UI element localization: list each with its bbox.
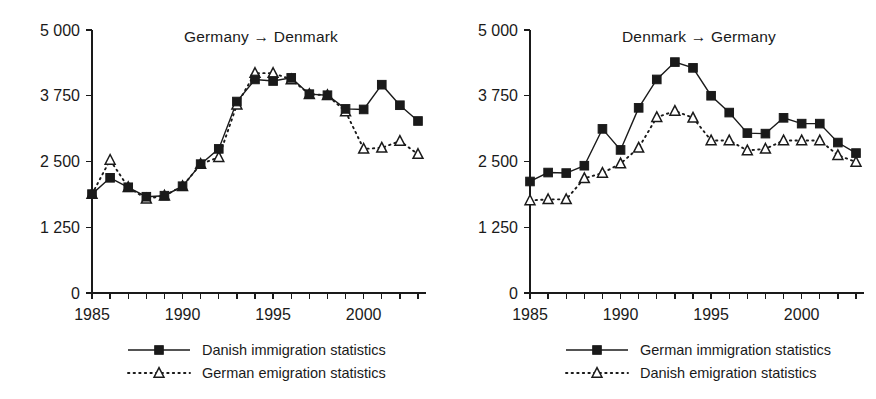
marker-square-left-0-1998 xyxy=(323,91,332,100)
y-tick-label-left-3750: 3 750 xyxy=(40,87,80,104)
marker-square-left-0-2002 xyxy=(396,101,405,110)
marker-triangle-left-1-1986 xyxy=(105,155,115,165)
chart-panel-germany-to-denmark: Germany → Denmark01 2502 5003 7505 00019… xyxy=(0,0,438,399)
marker-square-right-0-1993 xyxy=(671,58,680,67)
marker-square-left-0-1996 xyxy=(287,74,296,83)
marker-square-left-0-1991 xyxy=(196,160,205,169)
marker-square-right-0-1994 xyxy=(689,64,698,73)
y-tick-label-left-1250: 1 250 xyxy=(40,219,80,236)
marker-triangle-right-1-2002 xyxy=(833,150,843,160)
marker-square-left-0-1990 xyxy=(178,182,187,191)
chart-svg-left: Germany → Denmark01 2502 5003 7505 00019… xyxy=(0,0,438,399)
marker-square-left-0-1995 xyxy=(269,77,278,86)
marker-square-right-0-1996 xyxy=(725,108,734,117)
marker-triangle-right-1-1997 xyxy=(742,145,752,155)
marker-square-right-0-1995 xyxy=(707,91,716,100)
marker-square-right-0-1992 xyxy=(652,75,661,84)
series-line-left-1 xyxy=(92,73,418,199)
marker-square-left-0-2001 xyxy=(377,80,386,89)
marker-square-left-0-1994 xyxy=(251,75,260,84)
x-tick-label-left-1990: 1990 xyxy=(165,306,201,323)
marker-square-right-0-1987 xyxy=(562,169,571,178)
y-tick-label-left-5000: 5 000 xyxy=(40,22,80,39)
marker-square-right-0-1997 xyxy=(743,129,752,138)
marker-square-right-0-1998 xyxy=(761,129,770,138)
marker-square-right-0-1991 xyxy=(634,104,643,113)
marker-square-left-0-1988 xyxy=(142,192,151,201)
x-tick-label-right-1990: 1990 xyxy=(603,306,639,323)
marker-triangle-right-1-1986 xyxy=(543,194,553,204)
legend-label-left-1: German emigration statistics xyxy=(202,365,386,381)
marker-triangle-right-1-1999 xyxy=(779,135,789,145)
marker-triangle-left-1-2003 xyxy=(413,149,423,159)
marker-triangle-right-1-1996 xyxy=(724,135,734,145)
marker-square-left-0-2003 xyxy=(414,117,423,126)
marker-triangle-right-1-1989 xyxy=(597,168,607,178)
marker-square-right-0-1999 xyxy=(779,114,788,123)
marker-square-right-0-1988 xyxy=(580,161,589,170)
y-tick-label-right-1250: 1 250 xyxy=(478,219,518,236)
x-tick-label-left-2000: 2000 xyxy=(346,306,382,323)
x-tick-label-right-1995: 1995 xyxy=(693,306,729,323)
y-tick-label-right-3750: 3 750 xyxy=(478,87,518,104)
legend-entry-right-1: Danish emigration statistics xyxy=(566,365,817,381)
marker-square-left-0-1999 xyxy=(341,105,350,114)
x-tick-label-right-2000: 2000 xyxy=(784,306,820,323)
marker-triangle-right-1-1985 xyxy=(525,195,535,205)
legend-marker-square-left xyxy=(155,346,164,355)
marker-square-left-0-1987 xyxy=(124,183,133,192)
marker-square-right-0-2000 xyxy=(797,119,806,128)
marker-square-left-0-1992 xyxy=(214,145,223,154)
marker-square-left-0-1997 xyxy=(305,90,314,99)
legend-entry-left-1: German emigration statistics xyxy=(128,365,386,381)
marker-square-right-0-2001 xyxy=(815,119,824,128)
legend-label-left-0: Danish immigration statistics xyxy=(202,342,386,358)
y-tick-label-left-0: 0 xyxy=(71,285,80,302)
marker-square-right-0-1990 xyxy=(616,146,625,155)
marker-triangle-right-1-1990 xyxy=(616,158,626,168)
series-line-left-0 xyxy=(92,78,418,197)
x-tick-label-right-1985: 1985 xyxy=(512,306,548,323)
marker-triangle-right-1-1993 xyxy=(670,106,680,116)
marker-triangle-left-1-2002 xyxy=(395,136,405,146)
marker-triangle-right-1-1998 xyxy=(760,143,770,153)
y-tick-label-right-0: 0 xyxy=(509,285,518,302)
marker-square-left-0-1985 xyxy=(88,190,97,199)
series-line-right-1 xyxy=(530,111,856,200)
legend-label-right-1: Danish emigration statistics xyxy=(640,365,817,381)
y-tick-label-left-2500: 2 500 xyxy=(40,153,80,170)
marker-triangle-right-1-2001 xyxy=(815,135,825,145)
marker-square-right-0-1985 xyxy=(526,177,535,186)
migration-figure: Germany → Denmark01 2502 5003 7505 00019… xyxy=(0,0,876,399)
marker-square-left-0-1986 xyxy=(106,174,115,183)
x-tick-label-left-1995: 1995 xyxy=(255,306,291,323)
marker-triangle-right-1-1992 xyxy=(652,112,662,122)
marker-square-left-0-1989 xyxy=(160,191,169,200)
legend-entry-left-0: Danish immigration statistics xyxy=(128,342,386,358)
y-tick-label-right-2500: 2 500 xyxy=(478,153,518,170)
chart-title-right: Denmark → Germany xyxy=(622,28,776,45)
chart-title-left: Germany → Denmark xyxy=(184,28,338,45)
marker-square-right-0-1989 xyxy=(598,125,607,134)
legend-entry-right-0: German immigration statistics xyxy=(566,342,831,358)
marker-triangle-right-1-1991 xyxy=(634,142,644,152)
marker-square-left-0-1993 xyxy=(233,97,242,106)
marker-square-left-0-2000 xyxy=(359,105,368,114)
legend-label-right-0: German immigration statistics xyxy=(640,342,831,358)
legend-marker-square-right xyxy=(593,346,602,355)
marker-square-right-0-2002 xyxy=(834,138,843,147)
x-tick-label-left-1985: 1985 xyxy=(74,306,110,323)
y-tick-label-right-5000: 5 000 xyxy=(478,22,518,39)
marker-square-right-0-2003 xyxy=(852,149,861,158)
marker-square-right-0-1986 xyxy=(544,168,553,177)
marker-triangle-right-1-2000 xyxy=(797,135,807,145)
chart-panel-denmark-to-germany: Denmark → Germany01 2502 5003 7505 00019… xyxy=(438,0,876,399)
chart-svg-right: Denmark → Germany01 2502 5003 7505 00019… xyxy=(438,0,876,399)
